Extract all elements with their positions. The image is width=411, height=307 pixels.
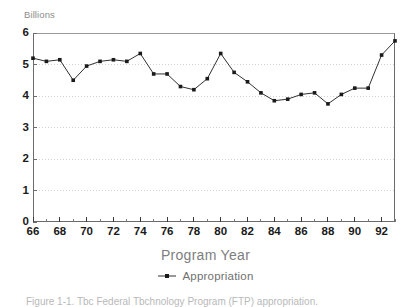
- plot-area: [33, 33, 395, 222]
- x-axis-tick-label: 92: [375, 226, 388, 238]
- y-axis-tick-label: 3: [23, 122, 29, 134]
- x-axis-tick-labels: 6668707274767880828486889092: [33, 226, 395, 242]
- y-axis-tick-label: 6: [23, 27, 29, 39]
- series-appropriation: [33, 33, 395, 222]
- y-axis-units-label: Billions: [24, 9, 55, 20]
- x-axis-tick-label: 70: [80, 226, 93, 238]
- x-axis-tick-label: 88: [322, 226, 335, 238]
- figure-caption: Figure 1-1. Tbc Federal Tbchnology Progr…: [26, 296, 406, 307]
- x-axis-tick-label: 84: [268, 226, 281, 238]
- x-axis-tick-label: 76: [161, 226, 174, 238]
- x-axis-tick-label: 82: [241, 226, 254, 238]
- x-axis-tick-label: 74: [134, 226, 147, 238]
- x-axis-tick-label: 66: [27, 226, 40, 238]
- x-axis-tick-label: 72: [107, 226, 120, 238]
- y-axis-tick-label: 2: [23, 153, 29, 165]
- y-axis-tick-label: 4: [23, 90, 29, 102]
- legend-item-label: Appropriation: [182, 270, 253, 282]
- y-axis-tick-label: 5: [23, 59, 29, 71]
- x-axis-title: Program Year: [0, 247, 411, 263]
- legend-line-marker-icon: [157, 271, 177, 281]
- x-axis-tick-label: 78: [187, 226, 200, 238]
- y-axis-tick-labels: 0123456: [14, 33, 29, 222]
- y-axis-tick-label: 1: [23, 185, 29, 197]
- x-axis-tick-label: 86: [295, 226, 308, 238]
- x-axis-tick-label: 68: [53, 226, 66, 238]
- chart-legend: Appropriation: [0, 270, 411, 282]
- x-axis-tick-label: 90: [348, 226, 361, 238]
- x-axis-tick-label: 80: [214, 226, 227, 238]
